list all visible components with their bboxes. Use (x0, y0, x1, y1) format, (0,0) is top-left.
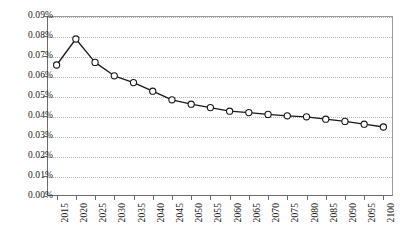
x-axis-tick-mark (76, 196, 77, 200)
x-axis-tick-label: 2040 (157, 203, 167, 222)
x-axis-tick-label: 2075 (291, 203, 301, 222)
y-axis-tick-label: 0.02% (28, 151, 53, 161)
x-axis-tick-label: 2045 (176, 203, 186, 222)
x-axis-tick-mark (230, 196, 231, 200)
y-axis-tick-label: 0.05% (28, 91, 53, 101)
x-axis-tick-label: 2070 (272, 203, 282, 222)
x-axis-tick-label: 2060 (234, 203, 244, 222)
x-axis-tick-mark (210, 196, 211, 200)
x-axis-tick-mark (114, 196, 115, 200)
x-axis-tick-label: 2095 (368, 203, 378, 222)
gridline (48, 97, 392, 98)
gridline (48, 57, 392, 58)
y-axis-tick-mark (43, 96, 47, 97)
x-axis-tick-mark (172, 196, 173, 200)
y-axis-tick-label: 0.07% (28, 51, 53, 61)
gridline (48, 77, 392, 78)
gridline (48, 177, 392, 178)
y-axis-tick-label: 0.03% (28, 131, 53, 141)
y-axis-tick-mark (43, 76, 47, 77)
gridline (48, 157, 392, 158)
x-axis-tick-label: 2030 (118, 203, 128, 222)
y-axis-tick-mark (43, 136, 47, 137)
x-axis-tick-mark (191, 196, 192, 200)
y-axis-tick-mark (43, 176, 47, 177)
x-axis-tick-label: 2025 (99, 203, 109, 222)
y-axis-tick-mark (43, 36, 47, 37)
y-axis-tick-label: 0.01% (28, 171, 53, 181)
x-axis-tick-label: 2020 (80, 203, 90, 222)
gridline (48, 137, 392, 138)
y-axis-tick-mark (43, 16, 47, 17)
gridline (48, 37, 392, 38)
x-axis-tick-label: 2015 (61, 203, 71, 222)
plot-area (47, 16, 393, 196)
x-axis-tick-label: 2100 (387, 203, 397, 222)
x-axis-tick-label: 2090 (349, 203, 359, 222)
x-axis-tick-mark (287, 196, 288, 200)
y-axis-tick-label: 0.09% (28, 11, 53, 21)
x-axis-tick-mark (134, 196, 135, 200)
x-axis-tick-mark (57, 196, 58, 200)
x-axis-tick-mark (249, 196, 250, 200)
x-axis-tick-mark (345, 196, 346, 200)
x-axis-tick-label: 2050 (195, 203, 205, 222)
y-axis-tick-label: 0.00% (28, 191, 53, 201)
y-axis-tick-mark (43, 196, 47, 197)
y-axis-tick-label: 0.08% (28, 31, 53, 41)
x-axis-tick-mark (95, 196, 96, 200)
y-axis-tick-mark (43, 156, 47, 157)
x-axis-tick-mark (326, 196, 327, 200)
gridline (48, 117, 392, 118)
x-axis-tick-label: 2055 (214, 203, 224, 222)
x-axis-tick-label: 2065 (253, 203, 263, 222)
x-axis-tick-mark (153, 196, 154, 200)
x-axis-tick-mark (383, 196, 384, 200)
y-axis-tick-label: 0.06% (28, 71, 53, 81)
x-axis-tick-label: 2085 (330, 203, 340, 222)
x-axis-tick-mark (307, 196, 308, 200)
x-axis-tick-label: 2080 (311, 203, 321, 222)
line-chart: 0.00%0.01%0.02%0.03%0.04%0.05%0.06%0.07%… (0, 0, 405, 251)
x-axis-tick-label: 2035 (138, 203, 148, 222)
y-axis-tick-mark (43, 116, 47, 117)
y-axis-tick-mark (43, 56, 47, 57)
x-axis-tick-mark (268, 196, 269, 200)
x-axis-tick-mark (364, 196, 365, 200)
y-axis-tick-label: 0.04% (28, 111, 53, 121)
gridline (48, 17, 392, 18)
